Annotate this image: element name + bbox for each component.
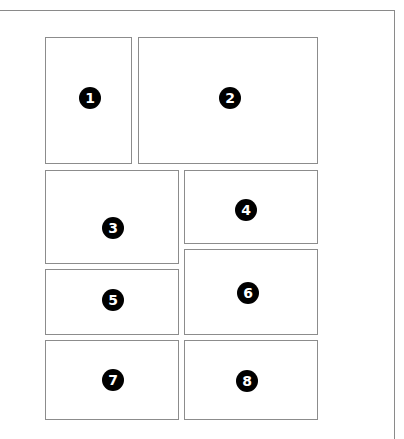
panel-number-badge-2: 2 [219, 87, 241, 109]
panel-number-badge-8: 8 [236, 370, 258, 392]
panel-number-badge-1: 1 [79, 87, 101, 109]
panel-number-badge-7: 7 [102, 369, 124, 391]
panel-number-badge-3: 3 [102, 217, 124, 239]
page-frame-right-edge [394, 10, 395, 439]
panel-number-badge-4: 4 [235, 199, 257, 221]
panel-number-badge-5: 5 [102, 289, 124, 311]
panel-number-badge-6: 6 [237, 282, 259, 304]
page-frame-top-edge [0, 10, 395, 11]
